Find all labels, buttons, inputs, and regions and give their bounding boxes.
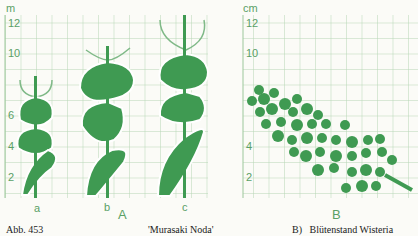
tick-a-12: 12 (8, 17, 20, 29)
tick-a-10: 10 (8, 47, 20, 59)
tick-b-4: 4 (246, 140, 252, 152)
plant-label-a: a (34, 202, 40, 214)
tick-b-12: 12 (246, 17, 258, 29)
diagram-canvas (0, 0, 418, 236)
panel-label-a: A (118, 207, 127, 222)
tick-a-4: 4 (8, 140, 14, 152)
tick-b-10: 10 (246, 47, 258, 59)
tick-a-6: 6 (8, 109, 14, 121)
plant-label-c: c (182, 201, 188, 213)
unit-label-a: m (6, 2, 15, 14)
panel-label-b: B (332, 207, 341, 222)
plant-label-b: b (104, 201, 110, 213)
caption-figure-number: Abb. 453 (6, 224, 43, 235)
tick-b-2: 2 (246, 171, 252, 183)
tick-a-2: 2 (8, 171, 14, 183)
unit-label-b: cm (243, 2, 258, 14)
caption-description: B) Blütenstand Wisteria (292, 224, 393, 235)
caption-cultivar: 'Murasaki Noda' (148, 224, 214, 235)
